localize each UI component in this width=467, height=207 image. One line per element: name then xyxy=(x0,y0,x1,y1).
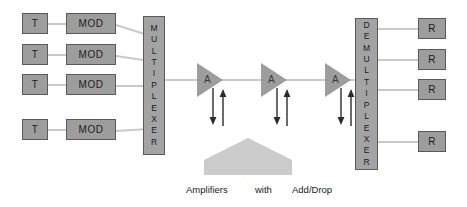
receiver-box-3[interactable]: R xyxy=(418,79,446,100)
multiplexer-letter-2: L xyxy=(152,46,157,57)
link-demultiplexer-receiver-3 xyxy=(377,89,419,91)
add-drop-arrows-1 xyxy=(208,86,230,128)
multiplexer-letter-1: U xyxy=(151,34,157,45)
multiplexer-letter-4: I xyxy=(153,68,155,79)
receiver-box-1[interactable]: R xyxy=(418,18,446,39)
demultiplexer-letter-9: E xyxy=(364,123,370,134)
transmitter-box-4[interactable]: T xyxy=(22,119,48,140)
add-drop-arrows-3 xyxy=(336,86,358,128)
receiver-label-2: R xyxy=(428,54,436,65)
multiplexer-letter-8: X xyxy=(151,114,157,125)
modulator-box-3[interactable]: MOD xyxy=(66,74,116,95)
demultiplexer-letter-8: L xyxy=(364,111,369,122)
transmitter-label-1: T xyxy=(32,18,39,29)
link-transmitter-modulator-1 xyxy=(47,23,67,25)
modulator-box-2[interactable]: MOD xyxy=(66,44,116,65)
demultiplexer-letter-4: L xyxy=(364,65,369,76)
multiplexer-letter-7: E xyxy=(151,103,157,114)
add-drop-arrows-2 xyxy=(272,86,294,128)
link-amplifier2-amplifier3 xyxy=(286,79,328,81)
diagram-canvas: T T T T MOD MOD MOD MOD M U L T I P L E … xyxy=(0,0,467,207)
demultiplexer-box[interactable]: D E M U L T I P L E X E R xyxy=(355,18,378,170)
multiplexer-letter-9: E xyxy=(151,125,157,136)
amplifier-label-1: A xyxy=(204,74,211,85)
link-demultiplexer-receiver-4 xyxy=(377,141,419,143)
transmitter-label-3: T xyxy=(32,79,39,90)
transmitter-box-2[interactable]: T xyxy=(22,44,48,65)
transmitter-box-3[interactable]: T xyxy=(22,74,48,95)
link-multiplexer-amplifier-1 xyxy=(164,79,200,81)
modulator-box-1[interactable]: MOD xyxy=(66,13,116,34)
receiver-box-2[interactable]: R xyxy=(418,49,446,70)
receiver-label-1: R xyxy=(428,23,436,34)
demultiplexer-letter-7: P xyxy=(364,100,370,111)
receiver-box-4[interactable]: R xyxy=(418,131,446,152)
link-transmitter-modulator-3 xyxy=(47,84,67,86)
demultiplexer-letter-11: E xyxy=(364,145,370,156)
multiplexer-letter-0: M xyxy=(150,23,157,34)
modulator-label-4: MOD xyxy=(79,124,104,135)
modulator-label-1: MOD xyxy=(79,18,104,29)
demultiplexer-letter-6: I xyxy=(365,88,367,99)
modulator-label-2: MOD xyxy=(79,49,104,60)
caption-amplifiers: Amplifiers xyxy=(186,184,228,195)
multiplexer-box[interactable]: M U L T I P L E X E R xyxy=(143,16,165,155)
receiver-label-4: R xyxy=(428,136,436,147)
demultiplexer-letter-5: T xyxy=(364,77,369,88)
multiplexer-letter-6: L xyxy=(152,91,157,102)
modulator-label-3: MOD xyxy=(79,79,104,90)
transmitter-box-1[interactable]: T xyxy=(22,13,48,34)
transmitter-label-2: T xyxy=(32,49,39,60)
link-demultiplexer-receiver-2 xyxy=(377,59,419,61)
demultiplexer-letter-10: X xyxy=(364,134,370,145)
amplifier-label-3: A xyxy=(332,74,339,85)
link-demultiplexer-receiver-1 xyxy=(377,28,419,30)
demultiplexer-letter-0: D xyxy=(363,20,369,31)
receiver-label-3: R xyxy=(428,84,436,95)
demultiplexer-letter-3: U xyxy=(363,54,369,65)
amplifier-label-2: A xyxy=(268,74,275,85)
demultiplexer-letter-1: E xyxy=(364,31,370,42)
link-amplifier1-amplifier2 xyxy=(222,79,264,81)
link-modulator-multiplexer-3 xyxy=(116,85,144,87)
link-transmitter-modulator-4 xyxy=(47,129,67,131)
transmitter-label-4: T xyxy=(32,124,39,135)
modulator-box-4[interactable]: MOD xyxy=(66,119,116,140)
multiplexer-letter-5: P xyxy=(151,80,157,91)
demultiplexer-letter-12: R xyxy=(363,157,369,168)
link-transmitter-modulator-2 xyxy=(47,54,67,56)
multiplexer-letter-10: R xyxy=(151,137,157,148)
demultiplexer-letter-2: M xyxy=(363,43,370,54)
caption-with: with xyxy=(255,184,272,195)
caption-add-drop: Add/Drop xyxy=(292,184,332,195)
link-modulator-multiplexer-4 xyxy=(116,128,145,131)
multiplexer-letter-3: T xyxy=(151,57,156,68)
add-drop-house-shape xyxy=(204,138,292,175)
